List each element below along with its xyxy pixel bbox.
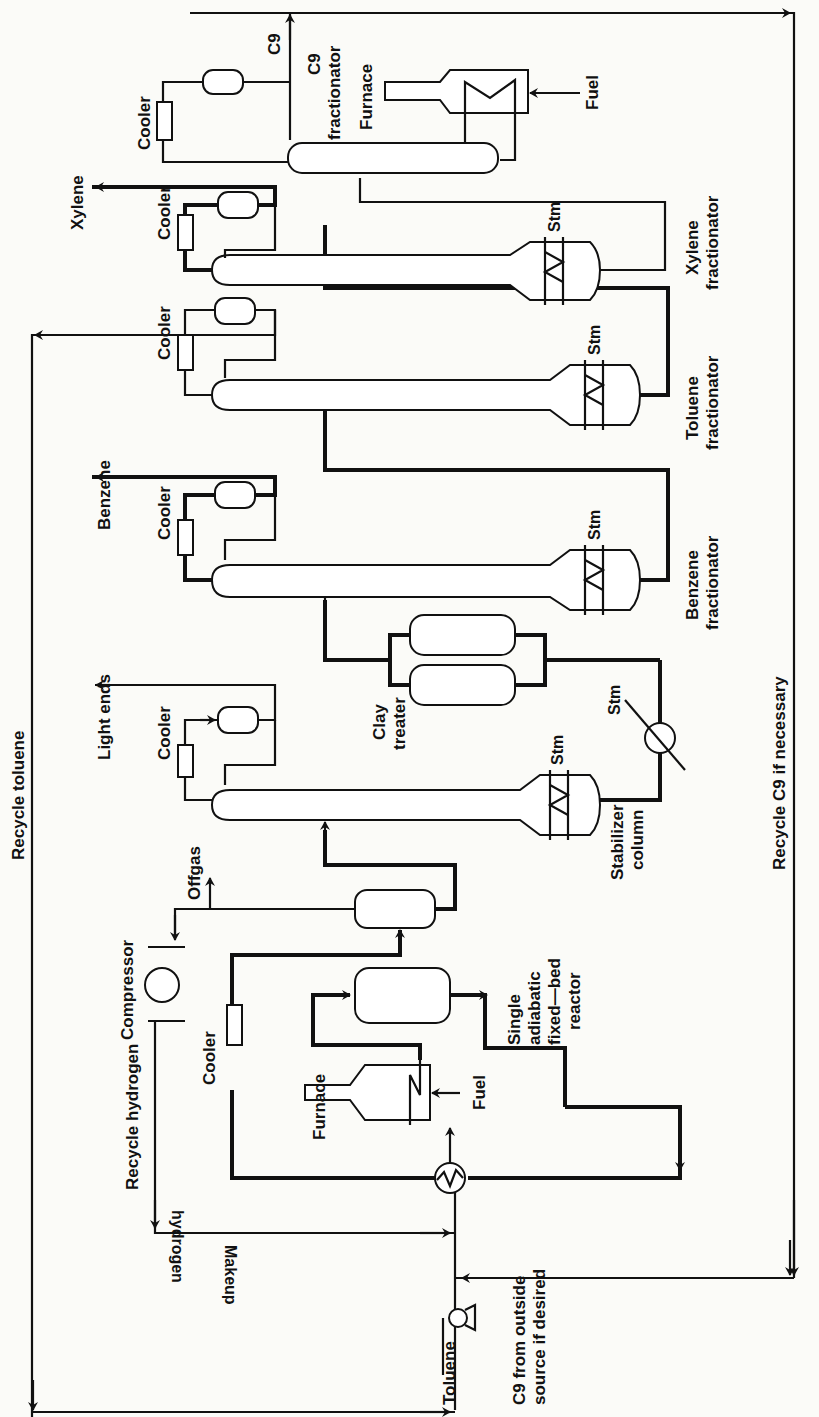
clay-label-1: Clay bbox=[370, 704, 389, 740]
compressor bbox=[145, 947, 185, 1190]
stabilizer-label-1: Stabilizer bbox=[608, 804, 627, 880]
benzene-frac-label-2: fractionator bbox=[703, 535, 722, 630]
xylene-fractionator bbox=[92, 178, 665, 305]
toluene-feed-label: Toluene bbox=[440, 1341, 459, 1405]
furnace-label: Furnace bbox=[310, 1074, 329, 1140]
clay-label-2: treater bbox=[390, 697, 409, 750]
recycle-hydrogen-label: Recycle hydrogen bbox=[123, 1044, 142, 1190]
reactor-label-3: fixed—bed bbox=[545, 958, 564, 1045]
hp-separator bbox=[175, 822, 455, 940]
c9-frac-label-1: C9 bbox=[305, 53, 324, 75]
c9-product-label: C9 bbox=[265, 33, 284, 55]
reactor-label-1: Single bbox=[505, 994, 524, 1045]
compressor-label: Compressor bbox=[118, 939, 137, 1040]
xylene-frac-label-1: Xylene bbox=[683, 220, 702, 275]
stabilizer-label-2: column bbox=[628, 810, 647, 870]
reactor-label-4: reactor bbox=[565, 972, 584, 1030]
stm-label: Stm bbox=[586, 510, 603, 540]
cooler-label: Cooler bbox=[155, 706, 174, 760]
stm-label: Stm bbox=[546, 202, 563, 232]
light-ends-label: Light ends bbox=[95, 674, 114, 760]
cooler-label: Cooler bbox=[155, 186, 174, 240]
process-flow-diagram: Toluene C9 from outside source if desire… bbox=[0, 0, 819, 1417]
c9-outside-label: C9 from outside bbox=[510, 1276, 529, 1405]
c9-fuel-label: Fuel bbox=[583, 75, 602, 110]
recycle-c9-label: Recycle C9 if necessary bbox=[770, 676, 789, 870]
xylene-product-label: Xylene bbox=[68, 175, 87, 230]
benzene-frac-label-1: Benzene bbox=[683, 550, 702, 620]
recycle-toluene-label: Recycle toluene bbox=[9, 731, 28, 860]
toluene-frac-label-1: Toluene bbox=[683, 376, 702, 440]
labels: Toluene C9 from outside source if desire… bbox=[9, 33, 789, 1405]
feed-effluent-exchanger bbox=[232, 1090, 680, 1193]
makeup-label: Makeup bbox=[222, 1245, 239, 1305]
c9-frac-label-2: fractionator bbox=[325, 45, 344, 140]
stm-label: Stm bbox=[549, 735, 566, 765]
stm-label: Stm bbox=[586, 325, 603, 355]
toluene-frac-label-2: fractionator bbox=[703, 355, 722, 450]
recycle-hydrogen-line bbox=[155, 1190, 790, 1275]
stm-exchanger-label: Stm bbox=[606, 685, 623, 715]
benzene-fractionator bbox=[92, 395, 668, 615]
xylene-frac-label-2: fractionator bbox=[703, 195, 722, 290]
reactor-label-2: adiabatic bbox=[525, 971, 544, 1045]
benzene-product-label: Benzene bbox=[95, 460, 114, 530]
offgas-label: Offgas bbox=[185, 846, 204, 900]
c9-outside-label-2: source if desired bbox=[530, 1269, 549, 1405]
c9-furnace-label: Furnace bbox=[357, 64, 376, 130]
cooler-label: Cooler bbox=[155, 306, 174, 360]
cooler-label: Cooler bbox=[155, 486, 174, 540]
cooler-label: Cooler bbox=[135, 96, 154, 150]
cooler-label: Cooler bbox=[200, 1031, 219, 1085]
hydrogen-label: hydrogen bbox=[169, 1210, 186, 1283]
fuel-label: Fuel bbox=[470, 1075, 489, 1110]
